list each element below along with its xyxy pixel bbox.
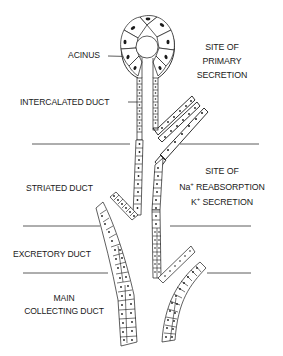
excretory-duct-icon (96, 202, 137, 346)
sodium-symbol: Na (179, 181, 190, 191)
annotation-reabsorption-line2: Na+ REABSORPTION (168, 178, 276, 193)
annotation-reabsorption-line1: SITE OF (168, 165, 276, 178)
label-main-collecting-duct: MAIN COLLECTING DUCT (15, 293, 113, 316)
annotation-primary-secretion-line1: SITE OF (186, 40, 258, 54)
annotation-primary-secretion: SITE OF PRIMARY SECRETION (186, 40, 258, 82)
reabsorption-text: REABSORPTION (194, 181, 265, 191)
branch-upper-icon (153, 96, 200, 142)
annotation-primary-secretion-line3: SECRETION (186, 68, 258, 82)
acinus-icon (121, 16, 175, 79)
label-excretory-duct: EXCRETORY DUCT (13, 249, 91, 259)
annotation-reabsorption-line3: K+ SECRETION (168, 193, 276, 208)
label-striated-duct: STRIATED DUCT (26, 183, 93, 193)
secretion-text: SECRETION (200, 197, 253, 207)
annotation-primary-secretion-line2: PRIMARY (186, 54, 258, 68)
label-main-collecting-duct-line2: COLLECTING DUCT (15, 306, 113, 316)
duct-diagram: ACINUS INTERCALATED DUCT STRIATED DUCT E… (0, 0, 283, 356)
annotation-reabsorption: SITE OF Na+ REABSORPTION K+ SECRETION (168, 165, 276, 208)
label-intercalated-duct: INTERCALATED DUCT (20, 97, 109, 107)
label-acinus: ACINUS (68, 50, 100, 60)
label-main-collecting-duct-line1: MAIN (15, 293, 113, 303)
